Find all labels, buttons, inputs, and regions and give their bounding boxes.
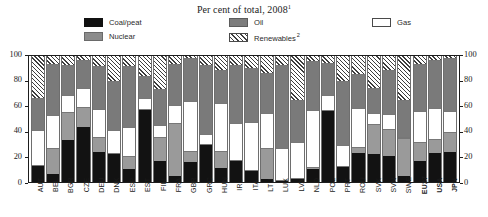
segment-gas-usa [429, 108, 441, 141]
segment-oil-bel [47, 65, 59, 115]
segment-gas-fin [154, 125, 166, 138]
x-axis-label-lva: LVA [291, 184, 305, 217]
x-axis-label-jpn: JPN [444, 184, 458, 217]
bar-nld [306, 56, 320, 182]
x-axis-label-text: PRT [344, 178, 351, 192]
x-axis-label-ltu: LTU [260, 184, 274, 217]
segment-gas-aut [32, 130, 44, 166]
segment-gas-gbr [184, 101, 196, 151]
x-axis-label-text: EU27 [421, 176, 428, 194]
bar-usa [428, 56, 442, 182]
segment-nuclear-fra [169, 124, 181, 176]
bar-est [138, 56, 152, 182]
segment-oil-lux [276, 66, 288, 148]
segment-nuclear-esp [123, 157, 135, 170]
x-axis-label-text: SVK [375, 178, 382, 193]
chart-title: Per cent of total, 20081 [0, 3, 488, 15]
segment-nuclear-swe [398, 139, 410, 176]
bar-ita [244, 56, 258, 182]
bar-svn [382, 56, 396, 182]
segment-oil-est [139, 77, 151, 97]
bar-lva [290, 56, 304, 182]
x-axis-label-lux: LUX [275, 184, 289, 217]
segment-gas-svk [368, 113, 380, 126]
legend-item-oil: Oil [229, 18, 263, 27]
segment-renewables-ita [245, 56, 257, 69]
x-axis-label-text: AUT [37, 178, 44, 193]
segment-gas-jpn [444, 111, 456, 132]
segment-renewables-irl [230, 56, 242, 66]
segment-gas-esp [123, 127, 135, 157]
legend-label-coal: Coal/peat [109, 18, 142, 27]
bar-prt [336, 56, 350, 182]
bar-series-container [29, 56, 459, 182]
bar-swe [397, 56, 411, 182]
bar-gbr [183, 56, 197, 182]
x-axis-label-text: EST [144, 178, 151, 192]
bar-ltu [260, 56, 274, 182]
segment-gas-pol [322, 95, 334, 111]
segment-oil-ltu [261, 74, 273, 113]
bar-esp [122, 56, 136, 182]
legend-label-renewables-text: Renewables [254, 34, 296, 43]
segment-oil-dnk [108, 82, 120, 130]
segment-oil-cze [77, 61, 89, 87]
segment-nuclear-svn [383, 130, 395, 155]
segment-oil-grc [200, 66, 212, 134]
segment-renewables-dnk [108, 56, 120, 82]
segment-oil-jpn [444, 59, 456, 112]
x-axis-label-deu: DEU [91, 184, 105, 217]
x-axis-label-text: BEL [52, 178, 59, 192]
segment-renewables-aut [32, 56, 44, 99]
y-axis-tick-right-0: 0 [464, 179, 488, 187]
segment-oil-fin [154, 90, 166, 125]
segment-renewables-swe [398, 56, 410, 101]
legend-label-renewables: Renewables2 [254, 32, 300, 43]
segment-gas-svn [383, 114, 395, 130]
bar-hun [214, 56, 228, 182]
segment-oil-usa [429, 61, 441, 108]
segment-nuclear-eu27 [414, 143, 426, 161]
x-axis-label-text: LUX [282, 178, 289, 192]
segment-gas-fra [169, 105, 181, 124]
x-axis-label-hun: HUN [214, 184, 228, 217]
bar-bel [46, 56, 60, 182]
segment-nuclear-deu [93, 138, 105, 152]
segment-oil-esp [123, 67, 135, 126]
segment-coal-bgr [62, 140, 74, 182]
segment-oil-fra [169, 65, 181, 105]
x-axis-label-text: SVN [390, 178, 397, 193]
x-axis-label-est: EST [137, 184, 151, 217]
segment-oil-svk [368, 89, 380, 113]
bar-rou [351, 56, 365, 182]
legend-item-nuclear: Nuclear [84, 32, 135, 41]
segment-renewables-grc [200, 56, 212, 66]
segment-renewables-rou [352, 56, 364, 75]
chart-root: Per cent of total, 20081 Coal/peat Nucle… [0, 0, 488, 217]
x-axis-label-text: IRL [236, 179, 243, 191]
segment-renewables-prt [337, 56, 349, 82]
segment-gas-hun [215, 103, 227, 152]
segment-gas-cze [77, 88, 89, 108]
legend-renewables-footnote-marker: 2 [296, 32, 300, 38]
x-axis-label-swe: SWE [398, 184, 412, 217]
segment-nuclear-ltu [261, 149, 273, 179]
segment-gas-lux [276, 148, 288, 181]
segment-nuclear-cze [77, 108, 89, 127]
segment-nuclear-jpn [444, 133, 456, 152]
x-axis-label-ita: ITA [245, 184, 259, 217]
x-axis-label-text: FRA [175, 178, 182, 193]
segment-renewables-fin [154, 56, 166, 90]
x-axis-label-text: ESP [129, 178, 136, 193]
segment-nuclear-fin [154, 138, 166, 161]
x-axis-label-svn: SVN [383, 184, 397, 217]
segment-gas-irl [230, 123, 242, 161]
legend-swatch-oil-icon [229, 18, 248, 27]
segment-renewables-lux [276, 56, 288, 66]
segment-oil-lva [291, 101, 303, 141]
segment-renewables-hun [215, 56, 227, 71]
segment-gas-ltu [261, 113, 273, 150]
x-axis-label-text: LVA [298, 179, 305, 192]
x-axis-label-text: HUN [221, 177, 228, 193]
segment-renewables-ltu [261, 56, 273, 74]
